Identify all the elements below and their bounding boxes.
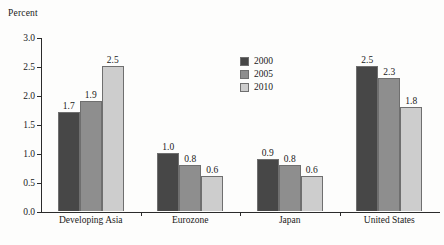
legend-item[interactable]: 2005 <box>240 68 273 80</box>
bar: 2.5 <box>356 66 378 211</box>
bar-group: 2.52.31.8United States <box>340 37 440 211</box>
bar-value-label: 1.7 <box>63 101 75 111</box>
bar: 0.8 <box>179 165 201 211</box>
y-axis-title: Percent <box>8 8 38 18</box>
x-axis-category-label: Japan <box>240 215 340 225</box>
bar: 1.7 <box>58 112 80 211</box>
legend-color-swatch <box>240 57 249 66</box>
legend-color-swatch <box>240 83 249 92</box>
y-tick-label: 2.0 <box>23 91 35 101</box>
bar: 2.3 <box>378 78 400 211</box>
bar: 1.8 <box>400 107 422 211</box>
x-axis-category-label: Eurozone <box>141 215 241 225</box>
legend-label: 2005 <box>254 69 273 79</box>
bar-group: 1.00.80.6Eurozone <box>141 37 241 211</box>
bar-group: 1.71.92.5Developing Asia <box>41 37 141 211</box>
legend-label: 2000 <box>254 56 273 66</box>
bar-value-label: 0.9 <box>262 148 274 158</box>
bar: 0.6 <box>201 176 223 211</box>
bar-value-label: 2.5 <box>361 55 373 65</box>
bar-value-label: 0.8 <box>184 154 196 164</box>
bar: 1.0 <box>157 153 179 211</box>
y-tick-label: 3.0 <box>23 33 35 43</box>
bar-value-label: 2.3 <box>383 67 395 77</box>
x-axis-category-label: Developing Asia <box>41 215 141 225</box>
bar-value-label: 1.0 <box>162 142 174 152</box>
chart-legend: 200020052010 <box>240 55 273 94</box>
bar-value-label: 0.6 <box>206 165 218 175</box>
bar-group-bars: 1.71.92.5 <box>58 37 124 211</box>
bar-value-label: 0.6 <box>306 165 318 175</box>
y-tick-label: 1.5 <box>23 120 35 130</box>
y-tick-label: 0.5 <box>23 178 35 188</box>
bar-group-bars: 2.52.31.8 <box>356 37 422 211</box>
bar-value-label: 1.8 <box>405 96 417 106</box>
legend-item[interactable]: 2010 <box>240 81 273 93</box>
bar: 2.5 <box>102 66 124 211</box>
legend-color-swatch <box>240 70 249 79</box>
legend-label: 2010 <box>254 82 273 92</box>
y-tick-label: 2.5 <box>23 62 35 72</box>
bar: 0.6 <box>301 176 323 211</box>
y-tick-mark <box>37 212 41 213</box>
y-tick-label: 0.0 <box>23 207 35 217</box>
y-tick-label: 1.0 <box>23 149 35 159</box>
bar-group-bars: 1.00.80.6 <box>157 37 223 211</box>
bar-value-label: 0.8 <box>284 154 296 164</box>
chart-figure: Percent 0.00.51.01.52.02.53.0 1.71.92.5D… <box>0 0 444 245</box>
bar-value-label: 1.9 <box>85 90 97 100</box>
legend-item[interactable]: 2000 <box>240 55 273 67</box>
x-axis-category-label: United States <box>340 215 440 225</box>
bar: 0.9 <box>257 159 279 211</box>
bar: 0.8 <box>279 165 301 211</box>
bar: 1.9 <box>80 101 102 211</box>
bar-value-label: 2.5 <box>107 55 119 65</box>
